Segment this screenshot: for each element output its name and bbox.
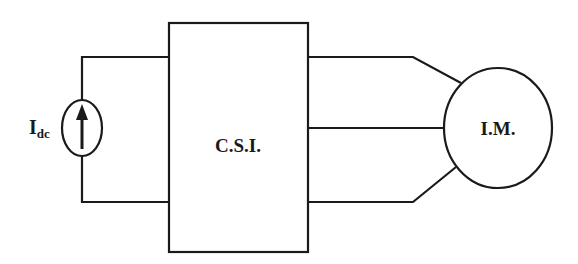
source-bottom-wire	[82, 156, 169, 202]
source-label-sub: dc	[37, 126, 50, 141]
phase-wires	[308, 57, 461, 202]
source-top-wire	[82, 57, 169, 100]
motor-label: I.M.	[481, 118, 516, 139]
source-label-main: I	[29, 116, 37, 138]
phase-c-wire	[308, 167, 456, 202]
circuit-diagram: Idc C.S.I. I.M.	[0, 0, 578, 264]
current-source	[62, 100, 102, 156]
source-label: Idc	[29, 116, 50, 141]
phase-a-wire	[308, 57, 461, 83]
csi-label: C.S.I.	[215, 135, 261, 156]
